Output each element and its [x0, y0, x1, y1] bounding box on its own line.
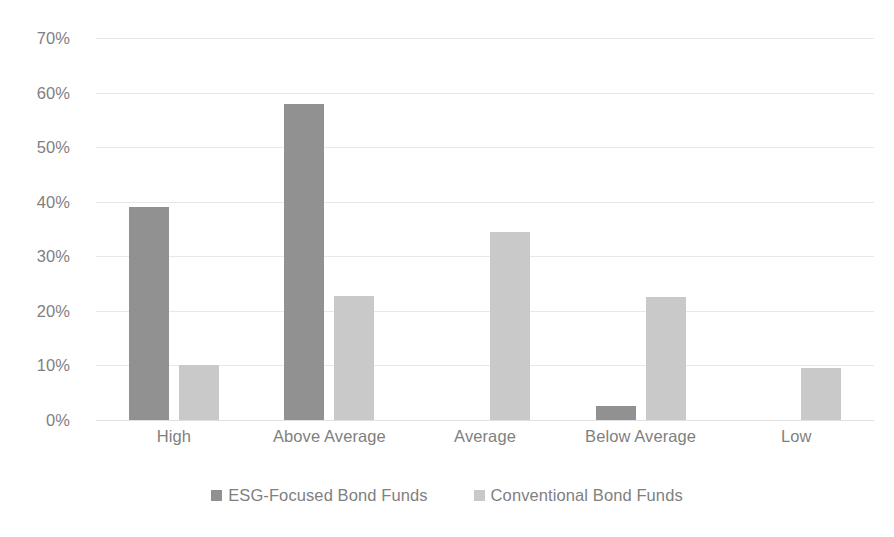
legend-label: ESG-Focused Bond Funds: [228, 486, 427, 505]
y-axis-tick-label: 10%: [37, 356, 70, 375]
x-axis-tick-label: Average: [454, 427, 516, 446]
legend-entry[interactable]: Conventional Bond Funds: [474, 486, 683, 505]
bar[interactable]: [334, 296, 374, 420]
x-axis-tick-label: Below Average: [585, 427, 696, 446]
y-axis-tick-label: 30%: [37, 247, 70, 266]
plot-area: [96, 38, 874, 420]
y-axis-tick-label: 70%: [37, 29, 70, 48]
bar[interactable]: [284, 104, 324, 421]
y-axis-tick-label: 60%: [37, 83, 70, 102]
legend-swatch-icon: [211, 490, 222, 501]
bar[interactable]: [801, 368, 841, 420]
x-axis-tick-label: Low: [781, 427, 812, 446]
x-axis-tick-label: High: [157, 427, 191, 446]
x-axis-tick-label: Above Average: [273, 427, 386, 446]
bar-group: [129, 38, 219, 420]
x-axis: HighAbove AverageAverageBelow AverageLow: [96, 427, 874, 461]
bar[interactable]: [596, 406, 636, 420]
y-axis-tick-label: 50%: [37, 138, 70, 157]
chart-legend: ESG-Focused Bond FundsConventional Bond …: [0, 486, 894, 505]
y-axis-tick-label: 40%: [37, 192, 70, 211]
legend-label: Conventional Bond Funds: [491, 486, 683, 505]
y-axis-tick-label: 20%: [37, 301, 70, 320]
y-axis: 0%10%20%30%40%50%60%70%: [0, 0, 92, 537]
legend-entry[interactable]: ESG-Focused Bond Funds: [211, 486, 427, 505]
bar[interactable]: [129, 207, 169, 420]
legend-swatch-icon: [474, 490, 485, 501]
bar-group: [284, 38, 374, 420]
bar[interactable]: [646, 297, 686, 420]
bar-chart: 0%10%20%30%40%50%60%70% HighAbove Averag…: [0, 0, 894, 537]
bar-group: [751, 38, 841, 420]
bar[interactable]: [490, 232, 530, 420]
bar[interactable]: [179, 365, 219, 420]
gridline-0: [96, 420, 874, 421]
y-axis-tick-label: 0%: [46, 411, 70, 430]
bar-group: [596, 38, 686, 420]
bar-group: [440, 38, 530, 420]
